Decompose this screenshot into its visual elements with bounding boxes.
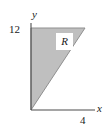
x-axis-tick-label-4: 4 <box>80 115 86 126</box>
y-axis-label: y <box>32 9 37 20</box>
figure-container: y x 12 4 R <box>0 0 111 133</box>
region-diagram-svg <box>0 0 111 133</box>
region-label-r: R <box>56 33 73 50</box>
y-axis-tick-label-12: 12 <box>9 24 20 35</box>
x-axis-label: x <box>97 103 102 114</box>
